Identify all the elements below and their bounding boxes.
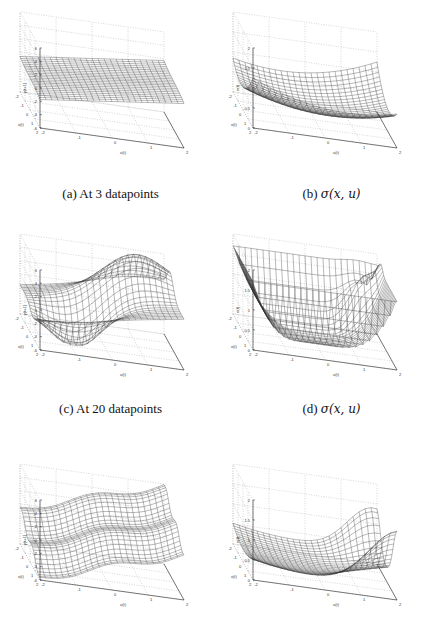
z-tick-label: 2 [248,46,251,51]
x-tick-label: 2 [249,352,252,357]
caption-a: (a) At 3 datapoints [0,186,221,202]
x-tick-label: 2 [249,130,252,135]
y-tick-label: -1 [77,357,81,362]
z-tick-label: 6 [35,498,38,503]
panel-d: 21.510.50σ(t)210-1-2-2-1012x(t)u(t) (d) … [221,210,442,420]
z-axis-label: y(t+1) [22,304,27,315]
z-tick-label: -4 [33,112,37,117]
x-tick-label: 2 [36,582,39,587]
axes-box: 21.510.50σ(t)210-1-2-2-1012x(t)u(t) [228,464,402,607]
mesh-plot-d: 21.510.50σ(t)210-1-2-2-1012x(t)u(t) [221,210,442,400]
z-tick-label: 4 [35,281,38,286]
y-tick-label: -2 [41,582,45,587]
y-axis-label: u(t) [120,602,127,607]
y-tick-label: 1 [363,367,366,372]
z-tick-label: -4 [33,334,37,339]
z-tick-label: 0.5 [244,328,250,333]
mesh-plot-e: 6420-2-4-6y(t+1)210-1-2-2-1012x(t)u(t) [0,430,221,636]
y-tick-label: 0 [114,140,117,145]
y-tick-label: 1 [363,145,366,150]
x-tick-label: -2 [228,546,232,551]
x-tick-label: -1 [20,325,24,330]
x-axis-label: x(t) [231,122,237,127]
y-tick-label: 0 [327,362,330,367]
panel-c: 6420-2-4-6y(t+1)210-1-2-2-1012x(t)u(t) (… [0,210,221,420]
y-axis-label: u(t) [333,150,340,155]
panel-a: 6420-2-4-6y(t+1)210-1-2-2-1012x(t)u(t) (… [0,0,221,205]
x-tick-label: -1 [20,555,24,560]
x-tick-label: 1 [244,573,247,578]
y-tick-label: 0 [114,592,117,597]
caption-text: At 3 datapoints [79,186,158,201]
y-tick-label: -2 [254,582,258,587]
z-axis-label: y(t+1) [22,82,27,93]
x-tick-label: 1 [244,121,247,126]
x-tick-label: -2 [15,316,19,321]
y-tick-label: -1 [290,357,294,362]
y-tick-label: 2 [186,150,189,155]
x-tick-label: 0 [26,112,29,117]
y-axis-label: u(t) [120,372,127,377]
z-tick-label: 2 [248,498,251,503]
caption-label: (b) [302,186,320,201]
y-tick-label: -2 [41,130,45,135]
z-tick-label: 1.5 [244,518,250,523]
y-tick-label: -1 [77,135,81,140]
y-axis-label: u(t) [120,150,127,155]
z-axis-label: σ(t) [235,306,240,313]
x-axis-label: x(t) [18,574,24,579]
caption-c: (c) At 20 datapoints [0,401,221,417]
caption-text: At 20 datapoints [76,401,162,416]
x-tick-label: 2 [36,130,39,135]
y-tick-label: 2 [399,372,402,377]
x-tick-label: -1 [20,103,24,108]
panel-f: 21.510.50σ(t)210-1-2-2-1012x(t)u(t) [221,430,442,636]
axes-box: 21.510.50σ(t)210-1-2-2-1012x(t)u(t) [228,12,402,155]
surface-mesh [233,246,397,348]
x-tick-label: 0 [26,564,29,569]
caption-math: σ(x, u) [321,187,361,201]
x-tick-label: -2 [228,94,232,99]
z-axis-label: y(t+1) [22,534,27,545]
z-tick-label: 0.5 [244,106,250,111]
z-tick-label: -2 [33,99,37,104]
z-tick-label: 2 [248,268,251,273]
z-axis-label: σ(t) [235,84,240,91]
x-tick-label: 0 [239,564,242,569]
y-tick-label: 2 [186,372,189,377]
y-tick-label: 2 [399,602,402,607]
caption-d: (d) σ(x, u) [221,401,442,417]
surface-mesh [233,508,397,576]
mesh-plot-f: 21.510.50σ(t)210-1-2-2-1012x(t)u(t) [221,430,442,636]
y-tick-label: -1 [77,587,81,592]
y-tick-label: 1 [150,145,153,150]
x-axis-label: x(t) [18,344,24,349]
z-tick-label: 4 [35,511,38,516]
x-tick-label: 0 [239,334,242,339]
x-tick-label: 0 [239,112,242,117]
x-axis-label: x(t) [18,122,24,127]
z-tick-label: -2 [33,321,37,326]
z-tick-label: 0.5 [244,558,250,563]
surface-mesh [233,58,397,118]
x-tick-label: -1 [233,103,237,108]
caption-label: (a) [62,186,79,201]
caption-label: (d) [302,401,320,416]
z-tick-label: 1.5 [244,288,250,293]
surface-mesh [20,254,184,345]
y-tick-label: 2 [399,150,402,155]
surface-mesh [20,56,184,103]
y-tick-label: 1 [363,597,366,602]
x-axis-label: x(t) [231,344,237,349]
y-tick-label: 2 [186,602,189,607]
y-axis-label: u(t) [333,602,340,607]
x-tick-label: -2 [15,94,19,99]
caption-math: σ(x, u) [321,402,361,416]
y-tick-label: -1 [290,587,294,592]
x-tick-label: 0 [26,334,29,339]
caption-label: (c) [59,401,76,416]
x-tick-label: 2 [36,352,39,357]
z-tick-label: 4 [35,59,38,64]
y-tick-label: -2 [254,130,258,135]
caption-b: (b) σ(x, u) [221,186,442,202]
